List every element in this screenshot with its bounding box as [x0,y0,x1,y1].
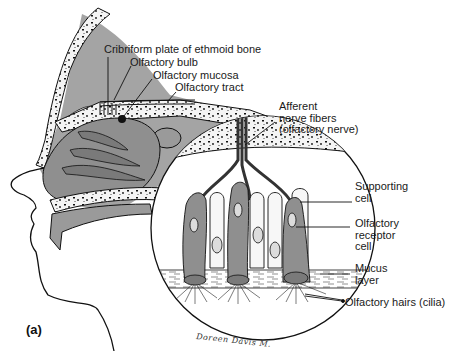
label-afferent-nerve-fibers: Afferent nerve fibers (olfactory nerve) [279,101,358,136]
panel-label: (a) [26,322,42,337]
label-olfactory-receptor-cell: Olfactory receptor cell [355,218,399,253]
label-supporting-cell: Supporting cell [355,181,408,204]
label-olfactory-mucosa: Olfactory mucosa [153,70,239,81]
label-cribriform-plate: Cribriform plate of ethmoid bone [104,44,261,55]
label-olfactory-hairs: Olfactory hairs (cilia) [345,297,445,308]
label-mucus-layer: Mucus layer [355,263,387,286]
label-olfactory-bulb: Olfactory bulb [130,57,198,68]
label-olfactory-tract: Olfactory tract [175,82,243,93]
